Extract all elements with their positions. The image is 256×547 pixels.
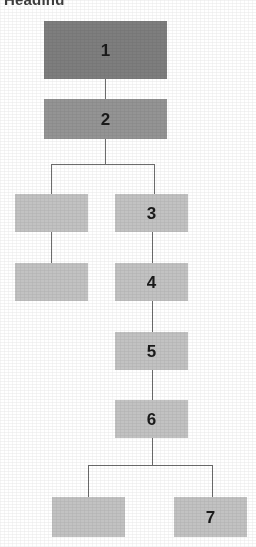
edge-branch-bus-bottom — [88, 465, 213, 466]
flow-node-5[interactable]: 5 — [115, 332, 188, 370]
flow-node-5-label: 5 — [147, 343, 156, 360]
edge-n2-to-bus — [105, 139, 106, 165]
flow-node-3[interactable]: 3 — [115, 194, 188, 232]
flow-node-2[interactable]: 2 — [44, 99, 167, 139]
flow-node-4-label: 4 — [147, 274, 156, 291]
flow-node-6-label: 6 — [147, 411, 156, 428]
edge-n6-to-bottom-bus — [152, 438, 153, 466]
flow-node-4[interactable]: 4 — [115, 263, 188, 301]
flowchart-page: Heading 1 2 3 4 5 6 7 — [0, 0, 256, 547]
edge-n4-n5 — [152, 301, 153, 333]
edge-bus-to-n3 — [154, 164, 155, 195]
edge-n1-n2 — [105, 79, 106, 100]
flow-node-7[interactable]: 7 — [174, 497, 247, 537]
flow-node-1-label: 1 — [101, 42, 110, 59]
clipped-heading-text: Heading — [4, 0, 124, 5]
flow-node-unlabeled-left-lower[interactable] — [15, 263, 88, 301]
edge-bottom-bus-to-n7 — [212, 465, 213, 498]
flow-node-unlabeled-left-upper[interactable] — [15, 194, 88, 232]
edge-bus-to-left-unlabeled — [51, 164, 52, 195]
flow-node-unlabeled-bottom-left[interactable] — [52, 497, 125, 537]
flow-node-6[interactable]: 6 — [115, 400, 188, 438]
flow-node-3-label: 3 — [147, 205, 156, 222]
edge-branch-bus-top — [51, 164, 155, 165]
edge-n5-n6 — [152, 370, 153, 401]
flow-node-7-label: 7 — [206, 509, 215, 526]
flow-node-1[interactable]: 1 — [44, 21, 167, 79]
edge-n3-n4 — [152, 232, 153, 264]
edge-left-unlabeled-chain — [51, 232, 52, 264]
edge-bottom-bus-to-left-unlabeled — [88, 465, 89, 498]
flow-node-2-label: 2 — [101, 111, 110, 128]
